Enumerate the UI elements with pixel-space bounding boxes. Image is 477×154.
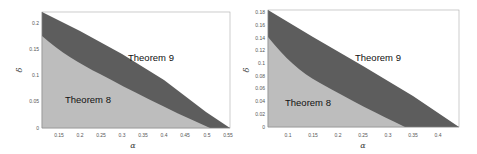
- right-ytick: 0: [262, 124, 265, 130]
- left-xtick: 0.25: [96, 132, 106, 138]
- right-xtick: 0.25: [358, 132, 368, 138]
- left-chart: 0 0.05 0.1 0.15 0.2 0.15 0.2 0.25 0.3 0.…: [15, 12, 233, 150]
- right-ytick: 0.08: [255, 73, 265, 79]
- right-ytick: 0.02: [255, 111, 265, 117]
- figure: 0 0.05 0.1 0.15 0.2 0.15 0.2 0.25 0.3 0.…: [0, 0, 477, 154]
- left-xtick: 0.5: [204, 132, 211, 138]
- right-ytick: 0.04: [255, 98, 265, 104]
- left-theorem8-label: Theorem 8: [65, 94, 111, 105]
- left-ytick: 0: [36, 125, 39, 131]
- left-xtick: 0.4: [161, 132, 168, 138]
- right-xtick: 0.15: [308, 132, 318, 138]
- right-xtick: 0.3: [385, 132, 392, 138]
- left-y-axis-label: δ: [15, 67, 24, 72]
- right-ytick: 0.16: [255, 22, 265, 28]
- left-x-axis-label: α: [130, 141, 136, 150]
- left-xtick: 0.45: [180, 132, 190, 138]
- left-xtick: 0.2: [77, 132, 84, 138]
- right-chart: 0 0.02 0.04 0.06 0.08 0.1 0.12 0.14 0.16…: [242, 9, 459, 150]
- left-xtick: 0.35: [138, 132, 148, 138]
- right-ytick: 0.1: [258, 60, 265, 66]
- right-xtick: 0.1: [285, 132, 292, 138]
- left-ytick: 0.2: [32, 20, 39, 26]
- left-ytick: 0.1: [32, 72, 39, 78]
- right-xtick: 0.4: [435, 132, 442, 138]
- right-theorem9-label: Theorem 9: [355, 52, 401, 63]
- right-xtick: 0.2: [335, 132, 342, 138]
- left-theorem9-label: Theorem 9: [128, 52, 174, 63]
- right-ytick: 0.12: [255, 47, 265, 53]
- left-xtick: 0.55: [223, 132, 233, 138]
- right-theorem8-label: Theorem 8: [285, 97, 331, 108]
- left-xtick: 0.3: [119, 132, 126, 138]
- right-x-axis-label: α: [360, 141, 366, 150]
- right-ytick: 0.14: [255, 35, 265, 41]
- right-xtick: 0.35: [408, 132, 418, 138]
- left-ytick: 0.15: [29, 46, 39, 52]
- right-y-axis-label: δ: [242, 67, 251, 72]
- left-xtick: 0.15: [54, 132, 64, 138]
- right-ytick: 0.18: [255, 9, 265, 15]
- right-ytick: 0.06: [255, 85, 265, 91]
- left-ytick: 0.05: [29, 98, 39, 104]
